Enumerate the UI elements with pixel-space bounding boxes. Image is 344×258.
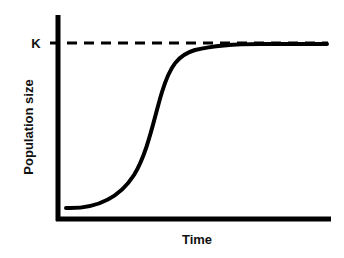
y-axis-label: Population size	[21, 79, 36, 174]
k-label: K	[31, 36, 41, 51]
logistic-curve	[66, 44, 327, 208]
logistic-growth-chart: K Time Population size	[0, 0, 344, 258]
x-axis-label: Time	[182, 232, 212, 247]
